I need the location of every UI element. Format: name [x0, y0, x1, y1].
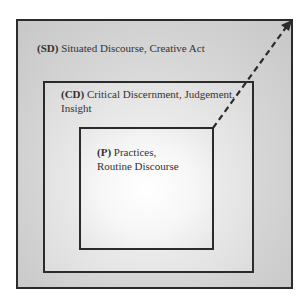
dashed-arrow-line: [213, 26, 287, 128]
dashed-arrow: [0, 0, 308, 307]
arrow-head-icon: [281, 20, 292, 31]
